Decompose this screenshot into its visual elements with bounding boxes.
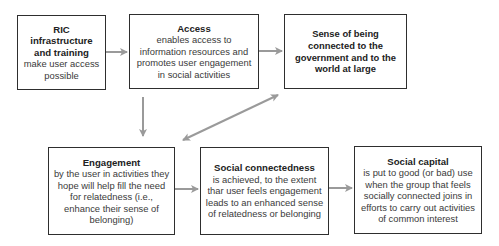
node-body: enables access to information resources … <box>133 34 255 80</box>
node-title: Access <box>177 23 211 35</box>
node-title: RIC infrastructure and training <box>21 24 102 59</box>
node-title: Engagement <box>83 157 141 169</box>
node-social-connectedness: Social connectedness is achieved, to the… <box>200 147 329 235</box>
arrow-engagement-sense-bidirectional <box>183 95 278 140</box>
node-body: is put to good (or bad) use when the gro… <box>358 167 478 224</box>
node-body: is achieved, to the extent thar user fee… <box>204 174 325 220</box>
node-ric-infrastructure: RIC infrastructure and training make use… <box>17 15 106 90</box>
node-sense-of-being-connected: Sense of being connected to the governme… <box>284 14 407 89</box>
node-title: Social connectedness <box>214 162 315 174</box>
node-title: Sense of being connected to the governme… <box>291 28 400 74</box>
node-title: Social capital <box>387 156 448 168</box>
node-body: by the user in activities they hope will… <box>52 168 171 225</box>
node-body: make user access possible <box>21 58 102 81</box>
node-access: Access enables access to information res… <box>129 14 259 89</box>
node-social-capital: Social capital is put to good (or bad) u… <box>354 146 482 234</box>
node-engagement: Engagement by the user in activities the… <box>48 147 175 235</box>
